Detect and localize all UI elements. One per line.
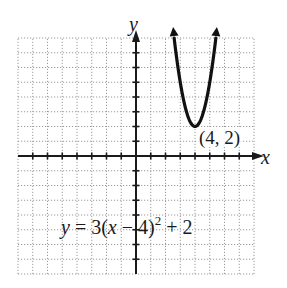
coordinate-plane: [0, 0, 287, 288]
x-axis-label: x: [261, 147, 270, 167]
y-axis-label: y: [129, 14, 138, 34]
equation-label: y = 3(x − 4)2 + 2: [61, 214, 192, 237]
vertex-label: (4, 2): [198, 128, 241, 147]
eq-tail: + 2: [161, 216, 192, 238]
eq-rest: − 4): [117, 216, 155, 238]
eq-y: y: [61, 216, 70, 238]
curve-arrow-right-icon: [211, 27, 220, 36]
eq-x: x: [108, 216, 117, 238]
eq-mid: = 3(: [70, 216, 108, 238]
curve-arrow-left-icon: [170, 27, 179, 36]
